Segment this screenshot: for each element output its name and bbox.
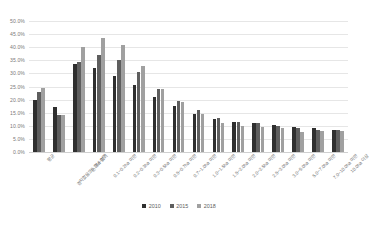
legend-item-label: 2015 [176,203,188,209]
legend-item[interactable]: 2018 [197,203,216,209]
bar-2015 [157,89,161,152]
bar-2010 [73,64,77,152]
bar-group [228,21,248,152]
bar-2015 [57,115,61,152]
x-axis-tick-label: 평균 [45,153,55,163]
bar-group [208,21,228,152]
bar-2018 [261,127,265,152]
legend-item-label: 2018 [204,203,216,209]
bar-2018 [161,89,165,152]
bar-2015 [336,130,340,152]
bar-2018 [101,38,105,152]
bar-2018 [300,132,304,152]
y-axis: 50.0%45.0%40.0%35.0%30.0%25.0%20.0%15.0%… [0,21,27,152]
bar-2010 [93,68,97,152]
bar-2010 [252,123,256,152]
bar-2015 [237,122,241,152]
legend-item-label: 2010 [149,203,161,209]
legend-swatch-icon [142,204,146,208]
y-axis-tick-label: 20.0% [10,97,25,103]
y-axis-tick-label: 50.0% [10,18,25,24]
bar-2015 [37,92,41,152]
bar-2010 [232,122,236,152]
bar-group [29,21,49,152]
bar-2010 [33,100,37,152]
plot-area [29,21,348,152]
bar-group [89,21,109,152]
bar-2018 [281,128,285,152]
bar-2015 [256,123,260,152]
x-axis-tick-label: 0.1ha 미만 [89,153,108,172]
bar-2018 [340,131,344,152]
bar-2015 [137,72,141,152]
chart-legend: 201020152018 [0,203,358,209]
y-axis-tick-label: 10.0% [10,123,25,129]
bar-2010 [272,125,276,153]
bar-group [49,21,69,152]
bar-2010 [173,106,177,152]
bar-group [189,21,209,152]
y-axis-tick-label: 35.0% [10,57,25,63]
bar-group [288,21,308,152]
bar-2010 [153,97,157,152]
bar-group [69,21,89,152]
bar-group [129,21,149,152]
bar-group [109,21,129,152]
bar-2015 [77,62,81,152]
y-axis-tick-label: 5.0% [13,136,25,142]
bar-2015 [97,55,101,152]
bar-2015 [276,126,280,152]
bar-2010 [193,114,197,152]
bar-2010 [292,127,296,152]
bar-2018 [81,47,85,152]
bar-2018 [41,88,45,152]
bar-2015 [117,60,121,152]
bar-2010 [213,119,217,152]
bar-2010 [312,128,316,152]
legend-swatch-icon [197,204,201,208]
bar-2010 [53,107,57,152]
bar-2015 [197,110,201,152]
legend-item[interactable]: 2015 [170,203,189,209]
bar-group [149,21,169,152]
bar-2010 [113,76,117,152]
bar-2015 [296,128,300,152]
legend-item[interactable]: 2010 [142,203,161,209]
bar-group [328,21,348,152]
bar-2018 [221,123,225,152]
bar-group [169,21,189,152]
bar-groups [29,21,348,152]
y-axis-tick-label: 25.0% [10,84,25,90]
y-axis-tick-label: 30.0% [10,70,25,76]
bar-group [248,21,268,152]
bar-2018 [241,126,245,152]
y-axis-tick-label: 45.0% [10,31,25,37]
legend-swatch-icon [170,204,174,208]
bar-group [308,21,328,152]
bar-2010 [332,130,336,152]
bar-2018 [320,131,324,152]
bar-2018 [61,115,65,152]
x-axis: 평균경지없음또는 알수없기0.1ha 미만0.1~0.2ha 미만0.2~0.3… [29,153,348,198]
y-axis-tick-label: 0.0% [13,149,25,155]
bar-group [268,21,288,152]
y-axis-tick-label: 40.0% [10,44,25,50]
bar-2018 [121,45,125,152]
bar-2015 [177,101,181,152]
bar-2010 [133,85,137,152]
bar-2015 [217,118,221,152]
bar-2018 [201,114,205,152]
bar-2015 [316,130,320,152]
bar-2018 [181,102,185,152]
bar-2018 [141,66,145,152]
y-axis-tick-label: 15.0% [10,110,25,116]
